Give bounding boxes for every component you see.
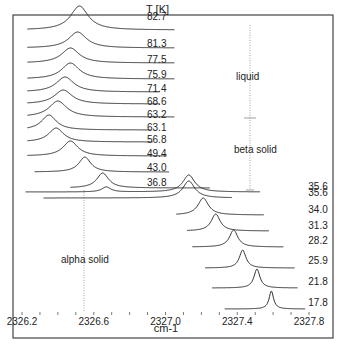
spectrum-curve-21.8 (212, 269, 297, 288)
temperature-label: 68.6 (147, 96, 167, 107)
temperature-label: 25.9 (308, 255, 328, 266)
beta-solid-label: beta solid (234, 144, 277, 155)
spectrum-curve-35.6 (44, 181, 232, 198)
temperature-label: 28.2 (308, 235, 328, 246)
temperature-labels: 82.781.377.575.971.468.663.263.156.849.4… (147, 11, 328, 308)
temperature-label: 31.3 (308, 220, 328, 231)
temperature-label: 21.8 (308, 276, 328, 287)
temperature-label: 56.8 (147, 134, 167, 145)
temperature-label: 75.9 (147, 69, 167, 80)
spectrum-curve-49.4 (27, 141, 166, 156)
plot-frame (13, 15, 333, 338)
liquid-label: liquid (236, 71, 259, 82)
x-axis-label: cm-1 (154, 322, 178, 334)
spectrum-curve-63.1 (27, 115, 150, 130)
phase-dividers (84, 25, 256, 312)
spectrum-curve-25.9 (205, 250, 295, 268)
temperature-label: 34.0 (308, 204, 328, 215)
spectrum-curve-28.2 (192, 230, 283, 247)
spectra-chart: 2326.22326.62327.02327.42327.8 cm-1 T [K… (0, 0, 345, 346)
x-axis-ticks (22, 312, 309, 315)
temperature-label: 17.8 (308, 297, 328, 308)
temperature-label: 35.6 (308, 187, 328, 198)
spectrum-curve-31.3 (187, 214, 269, 231)
spectrum-curve-34.0 (176, 198, 263, 215)
x-tick-label: 2327.4 (222, 316, 253, 327)
temperature-label: 77.5 (147, 54, 167, 65)
x-tick-label: 2326.6 (78, 316, 109, 327)
temperature-label: 63.1 (147, 122, 167, 133)
x-tick-label: 2327.8 (294, 316, 325, 327)
temperature-label: 49.4 (147, 148, 167, 159)
temperature-label: 71.4 (147, 83, 167, 94)
spectrum-curve-35.6 (26, 175, 261, 192)
spectrum-curve-71.4 (27, 77, 159, 92)
temperature-label: 36.8 (147, 177, 167, 188)
temperature-label: 81.3 (147, 38, 167, 49)
temperature-label: 82.7 (147, 11, 167, 22)
temperature-label: 63.2 (147, 109, 167, 120)
alpha-solid-label: alpha solid (61, 254, 109, 265)
spectrum-curve-17.8 (225, 291, 306, 309)
temperature-label: 43.0 (147, 162, 167, 173)
x-tick-label: 2326.2 (7, 316, 38, 327)
